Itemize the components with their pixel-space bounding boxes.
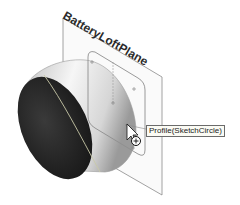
profile-tooltip: Profile(SketchCircle) — [146, 125, 225, 137]
model-scene[interactable]: BatteryLoftPlane — [0, 0, 240, 205]
graphics-viewport[interactable]: BatteryLoftPlane Profile(SketchCircle) — [0, 0, 240, 205]
cylinder-body[interactable] — [3, 60, 136, 191]
